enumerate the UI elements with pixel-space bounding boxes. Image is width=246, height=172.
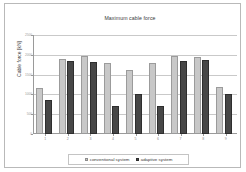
bar-group (192, 35, 215, 134)
bar-group (102, 35, 125, 134)
bar-conventional (216, 87, 223, 134)
bar-group (214, 35, 237, 134)
x-tick-mark (90, 134, 91, 136)
bar-conventional (81, 56, 88, 134)
legend-swatch-conventional-icon (85, 158, 89, 162)
bar-conventional (36, 88, 43, 134)
y-tick-label: 1000 (6, 93, 32, 97)
x-tick-mark (226, 134, 227, 136)
chart-outer-frame: Maximum cable force Cable force [kN] 050… (4, 3, 241, 168)
legend-item-adaptive: adaptive system (136, 157, 173, 162)
x-tick-mark (203, 134, 204, 136)
x-tick-label: 6 (151, 137, 165, 141)
legend-item-conventional: conventional system (85, 157, 130, 162)
bar-adaptive (67, 61, 74, 134)
x-tick-mark (113, 134, 114, 136)
bar-group (57, 35, 80, 134)
x-tick-label: 3 (83, 137, 97, 141)
legend-swatch-adaptive-icon (136, 158, 140, 162)
x-tick-label: 7 (174, 137, 188, 141)
bar-adaptive (157, 106, 164, 135)
bar-conventional (126, 70, 133, 134)
bar-conventional (104, 63, 111, 134)
x-tick-mark (45, 134, 46, 136)
bar-group (147, 35, 170, 134)
x-tick-label: 9 (219, 137, 233, 141)
bar-group (124, 35, 147, 134)
y-tick-label: 0 (6, 132, 32, 136)
bar-conventional (149, 63, 156, 134)
bar-group (34, 35, 57, 134)
bar-adaptive (180, 61, 187, 134)
x-tick-mark (136, 134, 137, 136)
x-tick-mark (68, 134, 69, 136)
bar-adaptive (90, 62, 97, 134)
bar-adaptive (45, 100, 52, 134)
chart-title: Maximum cable force (65, 15, 195, 21)
bar-adaptive (112, 106, 119, 135)
x-tick-label: 5 (129, 137, 143, 141)
x-tick-label: 4 (106, 137, 120, 141)
bar-conventional (171, 56, 178, 134)
legend-label-conventional: conventional system (90, 157, 130, 162)
x-tick-mark (158, 134, 159, 136)
bar-conventional (59, 59, 66, 134)
y-tick-label: 500 (6, 113, 32, 117)
legend-label-adaptive: adaptive system (141, 157, 173, 162)
plot-area (34, 35, 237, 134)
y-tick-mark (31, 134, 33, 135)
x-tick-mark (181, 134, 182, 136)
chart-screenshot: Maximum cable force Cable force [kN] 050… (0, 0, 246, 172)
bar-adaptive (225, 94, 232, 134)
y-tick-label: 2500 (6, 33, 32, 37)
bar-group (169, 35, 192, 134)
x-tick-label: 8 (196, 137, 210, 141)
x-tick-label: 1 (38, 137, 52, 141)
bar-group (79, 35, 102, 134)
bar-adaptive (135, 94, 142, 134)
bar-adaptive (202, 60, 209, 134)
y-tick-label: 2000 (6, 53, 32, 57)
chart-legend: conventional system adaptive system (68, 154, 189, 165)
x-tick-label: 2 (61, 137, 75, 141)
y-tick-label: 1500 (6, 73, 32, 77)
bar-conventional (194, 57, 201, 134)
x-axis-ticks: 123456789 (34, 134, 237, 146)
